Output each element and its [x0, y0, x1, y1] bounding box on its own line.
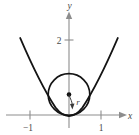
x-tick-label-minus-1: −1 — [23, 123, 33, 133]
graph-canvas: x y −1 1 2 r — [0, 0, 139, 135]
x-axis-label: x — [127, 111, 133, 121]
x-tick-label-1: 1 — [99, 123, 104, 133]
x-axis-arrowhead — [119, 112, 127, 118]
figure-container: x y −1 1 2 r — [0, 0, 139, 135]
axes-group — [6, 12, 127, 129]
y-axis-arrowhead — [66, 12, 72, 20]
y-axis-label: y — [66, 1, 72, 11]
y-tick-label-2: 2 — [57, 36, 62, 46]
radius-label: r — [76, 97, 80, 107]
radius-arrowhead — [70, 104, 75, 110]
